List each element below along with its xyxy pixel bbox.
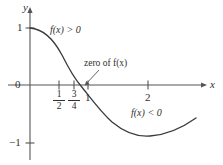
zero-callout-label: zero of f(x) <box>84 59 127 69</box>
x-axis-label: x <box>210 79 215 90</box>
y-tick-label-1: 1 <box>17 22 23 33</box>
x-tick-label-1: 1 <box>85 92 91 103</box>
negative-region-label: f(x) < 0 <box>131 108 162 118</box>
fraction-denominator: 4 <box>68 102 80 112</box>
x-tick-label-one-half: 1 2 <box>53 90 65 111</box>
fraction-numerator: 1 <box>53 90 65 100</box>
y-tick-label-minus-1: −1 <box>9 137 21 148</box>
origin-label: 0 <box>15 79 21 90</box>
y-axis-arrowhead <box>27 7 32 13</box>
positive-region-label: f(x) > 0 <box>50 25 81 35</box>
function-graph-figure: y x 0 1 −1 1 2 3 4 1 2 f(x) > 0 f(x) < 0… <box>0 0 223 165</box>
plot-canvas <box>0 0 223 165</box>
fraction-numerator: 3 <box>68 90 80 100</box>
y-axis-label: y <box>23 2 28 13</box>
zero-callout-leader-line <box>86 70 99 84</box>
fraction-denominator: 2 <box>53 102 65 112</box>
x-tick-label-2: 2 <box>145 92 151 103</box>
x-axis-arrowhead <box>201 82 207 87</box>
function-curve <box>30 28 196 136</box>
x-tick-label-three-quarters: 3 4 <box>68 90 80 111</box>
